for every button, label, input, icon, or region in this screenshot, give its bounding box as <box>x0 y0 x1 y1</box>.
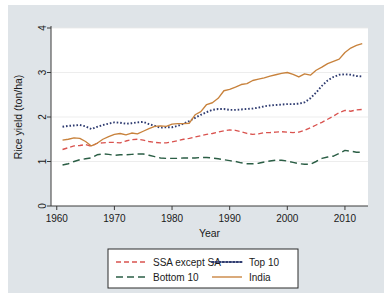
x-tick-label-1980: 1980 <box>161 213 184 224</box>
y-tick-label-2: 2 <box>37 114 48 120</box>
x-tick-label-2010: 2010 <box>334 213 357 224</box>
x-tick-label-1990: 1990 <box>219 213 242 224</box>
y-tick-label-4: 4 <box>37 25 48 31</box>
x-tick-label-2000: 2000 <box>276 213 299 224</box>
x-axis-title: Year <box>199 227 221 239</box>
y-tick-label-1: 1 <box>37 158 48 164</box>
y-tick-label-0: 0 <box>37 203 48 209</box>
legend-label: India <box>249 272 271 283</box>
legend-label: SSA except SA <box>153 257 221 268</box>
y-tick-label-3: 3 <box>37 69 48 75</box>
legend-label: Top 10 <box>249 257 279 268</box>
chart-figure: 01234196019701980199020002010YearRice yi… <box>8 5 384 293</box>
y-axis-title: Rice yield (ton/ha) <box>12 75 24 160</box>
x-tick-label-1960: 1960 <box>46 213 69 224</box>
x-tick-label-1970: 1970 <box>103 213 126 224</box>
rice-yield-line-chart: 01234196019701980199020002010YearRice yi… <box>8 5 384 293</box>
legend-label: Bottom 10 <box>153 272 199 283</box>
